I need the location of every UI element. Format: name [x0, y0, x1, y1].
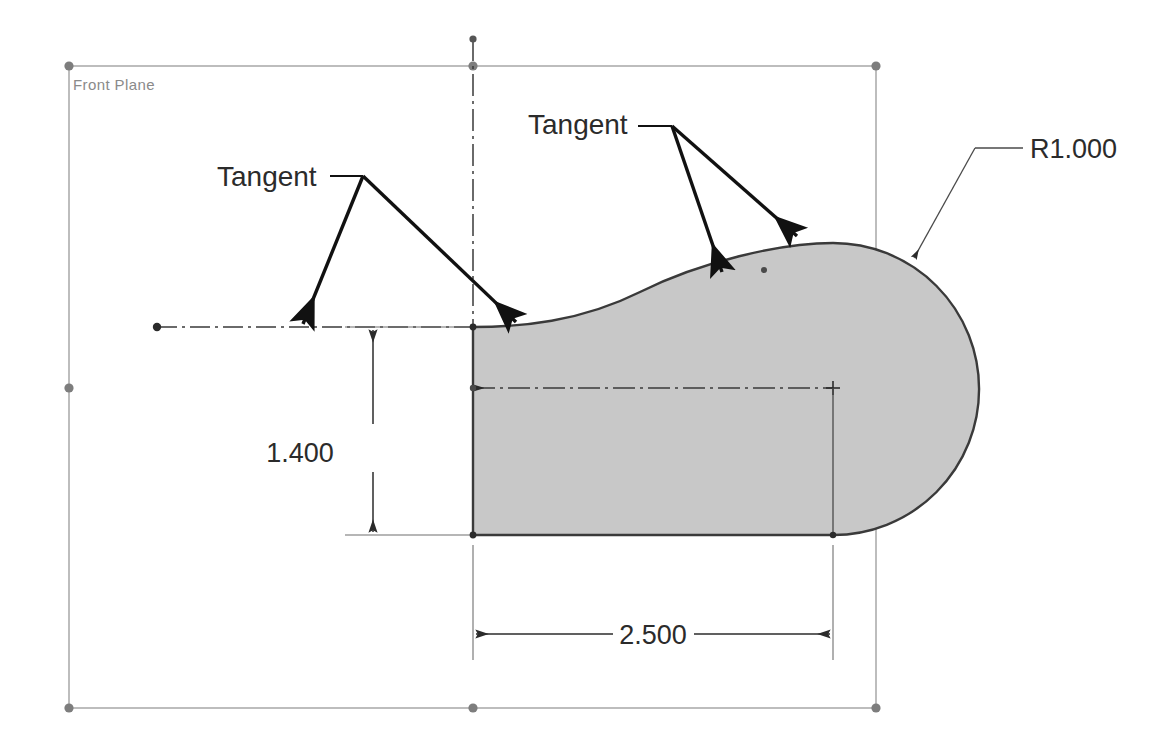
tangent-label-left[interactable]: Tangent [217, 161, 317, 192]
plane-handle-bottom-left[interactable] [64, 703, 73, 712]
horizontal-length-dimension[interactable]: 2.500 [473, 545, 833, 660]
vertex-top-left[interactable] [470, 324, 477, 331]
plane-handle-left-mid[interactable] [64, 383, 73, 392]
plane-handle-top-right[interactable] [871, 61, 880, 70]
sketch-drawing-area[interactable]: Front Plane 1.400 [0, 0, 1157, 756]
tangent-callout-right[interactable]: Tangent [528, 109, 797, 272]
tangent-label-right[interactable]: Tangent [528, 109, 628, 140]
radius-dimension[interactable]: R1.000 [914, 134, 1117, 258]
plane-handle-bottom-mid[interactable] [468, 703, 477, 712]
vertical-centerline-endpoint-dot[interactable] [469, 35, 476, 42]
profile-outline[interactable] [473, 243, 979, 535]
plane-handle-top-left[interactable] [64, 61, 73, 70]
vertical-height-dimension[interactable]: 1.400 [266, 327, 473, 535]
vertex-bottom-left[interactable] [470, 532, 477, 539]
tangent-callout-left[interactable]: Tangent [217, 161, 516, 324]
centerline-endpoint-dot[interactable] [153, 323, 161, 331]
vertex-left-mid[interactable] [470, 385, 476, 391]
cad-sketch-canvas[interactable]: Front Plane 1.400 [0, 0, 1157, 756]
tangent-left-arrow-b [363, 176, 516, 322]
tangent-left-arrow-a [303, 176, 363, 324]
dim-value-height[interactable]: 1.400 [266, 438, 334, 468]
vertex-spline-tangent[interactable] [761, 267, 767, 273]
radius-leader-line[interactable] [914, 148, 975, 258]
plane-handle-bottom-right[interactable] [871, 703, 880, 712]
dim-value-radius[interactable]: R1.000 [1030, 134, 1117, 164]
vertex-bottom-arc-tangent[interactable] [830, 532, 836, 538]
plane-label: Front Plane [73, 76, 155, 93]
profile-shape[interactable] [473, 243, 979, 535]
dim-value-length[interactable]: 2.500 [619, 620, 687, 650]
